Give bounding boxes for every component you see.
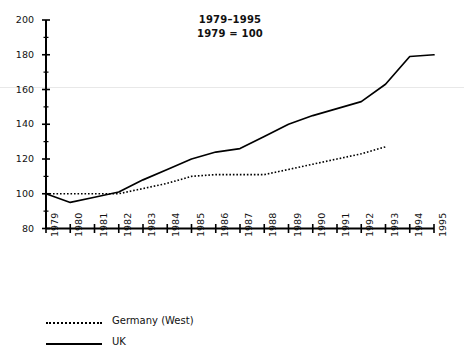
chart-title-block: 1979–1995 1979 = 100	[140, 13, 320, 40]
y-axis-tick-label: 120	[8, 154, 34, 164]
x-axis-tick-label: 1989	[293, 212, 303, 236]
x-axis-tick-label: 1994	[414, 212, 424, 236]
y-axis-tick-label: 140	[8, 119, 34, 129]
x-axis-tick-label: 1995	[438, 212, 448, 236]
x-axis-tick-label: 1986	[220, 212, 230, 236]
legend-item-uk: UK	[46, 333, 346, 354]
y-axis-tick-label: 80	[8, 224, 34, 234]
chart-plot-svg	[0, 0, 464, 356]
x-axis-tick-label: 1982	[123, 212, 133, 236]
y-axis-tick-label: 160	[8, 85, 34, 95]
x-axis-tick-label: 1992	[365, 212, 375, 236]
legend-item-germany-west: Germany (West)	[46, 312, 346, 333]
x-axis-tick-label: 1987	[244, 212, 254, 236]
x-axis-tick-label: 1988	[268, 212, 278, 236]
legend-swatch-dotted-icon	[46, 322, 102, 324]
y-axis-tick-label: 100	[8, 189, 34, 199]
x-axis-tick-label: 1985	[196, 212, 206, 236]
chart-title: 1979–1995	[140, 13, 320, 27]
y-axis-tick-label: 180	[8, 50, 34, 60]
x-axis-tick-label: 1981	[99, 212, 109, 236]
x-axis-tick-label: 1983	[147, 212, 157, 236]
chart-container: 1979–1995 1979 = 100 2001801601401201008…	[0, 0, 464, 356]
legend-label-germany-west: Germany (West)	[112, 315, 194, 326]
legend-label-uk: UK	[112, 336, 126, 347]
series-line-uk	[46, 55, 434, 203]
y-axis-tick-label: 200	[8, 15, 34, 25]
x-axis-tick-label: 1979	[50, 212, 60, 236]
series-line-germany-west	[46, 147, 386, 194]
x-axis-tick-label: 1991	[341, 212, 351, 236]
x-axis-tick-label: 1984	[171, 212, 181, 236]
legend-swatch-solid-icon	[46, 343, 102, 345]
x-axis-tick-label: 1993	[390, 212, 400, 236]
x-axis-tick-label: 1980	[74, 212, 84, 236]
chart-legend: Germany (West) UK	[46, 312, 346, 354]
x-axis-tick-label: 1990	[317, 212, 327, 236]
chart-subtitle: 1979 = 100	[140, 27, 320, 41]
